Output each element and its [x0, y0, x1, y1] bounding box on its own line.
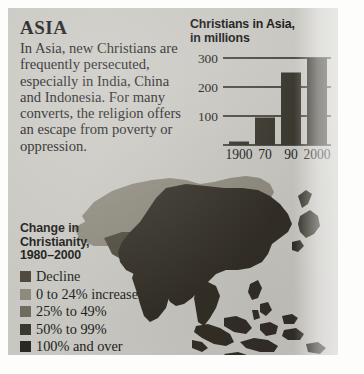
legend-swatch-icon	[20, 324, 31, 335]
legend-item-label: 50% to 99%	[36, 322, 107, 337]
legend-item-decline: Decline	[20, 268, 195, 286]
bar-90	[281, 72, 301, 145]
legend-title-line-2: Christianity,	[20, 235, 89, 249]
chart-plot-area: 300 200 100	[190, 50, 338, 168]
article-column: ASIA In Asia, new Christians are frequen…	[20, 18, 188, 154]
chart-title-line-2: in millions	[190, 31, 250, 45]
chart-title: Christians in Asia, in millions	[190, 18, 338, 46]
infographic-panel: ASIA In Asia, new Christians are frequen…	[8, 8, 338, 355]
bar-70	[255, 117, 275, 145]
legend-item-0-24: 0 to 24% increase	[20, 285, 195, 303]
legend-swatch-icon	[20, 306, 31, 317]
x-axis-tick-label: 2000	[299, 148, 335, 161]
legend-item-label: 0 to 24% increase	[36, 287, 138, 302]
x-axis-tick-label: 70	[252, 148, 278, 161]
y-axis-tick-label: 200	[188, 81, 218, 94]
legend-swatch-icon	[20, 289, 31, 300]
legend-title-line-3: 1980–2000	[20, 248, 81, 262]
y-axis-tick-label: 100	[188, 110, 218, 123]
chart-bars	[229, 58, 327, 145]
bar-2000	[307, 58, 327, 145]
legend-swatch-icon	[20, 341, 31, 352]
legend-swatch-icon	[20, 271, 31, 282]
legend-item-50-99: 50% to 99%	[20, 320, 195, 338]
page-title: ASIA	[20, 18, 188, 38]
bar-1900	[229, 141, 249, 145]
legend-item-label: 25% to 49%	[36, 304, 107, 319]
bar-chart: Christians in Asia, in millions 300 200 …	[190, 18, 338, 178]
map-region-philippines	[248, 280, 272, 320]
chart-title-line-1: Christians in Asia,	[190, 17, 295, 31]
map-legend: Change in Christianity, 1980–2000 Declin…	[20, 222, 195, 355]
legend-title-line-1: Change in	[20, 221, 79, 235]
scanned-page: ASIA In Asia, new Christians are frequen…	[0, 0, 364, 374]
legend-item-25-49: 25% to 49%	[20, 303, 195, 321]
y-axis-tick-label: 300	[188, 52, 218, 65]
legend-title: Change in Christianity, 1980–2000	[20, 222, 195, 263]
map-region-indonesia	[192, 314, 326, 355]
article-body: In Asia, new Christians are frequently p…	[20, 40, 183, 154]
legend-item-100-over: 100% and over	[20, 338, 195, 355]
legend-item-label: Decline	[36, 269, 80, 284]
legend-item-label: 100% and over	[36, 339, 123, 354]
map-region-japan	[292, 190, 320, 252]
